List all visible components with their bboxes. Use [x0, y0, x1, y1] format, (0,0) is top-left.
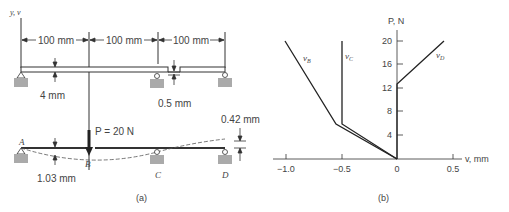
figure: y, v 100 mm 100 mm 100 mm [0, 0, 509, 212]
xtick-neg1: −1.0 [277, 164, 295, 174]
gap-05mm-label: 0.5 mm [158, 98, 191, 109]
support-roller-C2 [150, 150, 164, 165]
panel-a: y, v 100 mm 100 mm 100 mm [9, 8, 260, 203]
ytick-20: 20 [382, 36, 392, 46]
series-vB [285, 41, 397, 159]
span-3-label: 100 mm [173, 35, 209, 46]
point-B-label: B [85, 159, 91, 169]
support-pin-A [14, 72, 28, 87]
y-axis-label: P, N [388, 16, 404, 26]
ytick-4: 4 [387, 130, 392, 140]
support-roller-D [218, 73, 232, 88]
span-1-label: 100 mm [38, 35, 74, 46]
gap-4mm-label: 4 mm [40, 90, 65, 101]
axis-label-yv: y, v [9, 8, 21, 17]
label-vB: vB [303, 53, 311, 64]
beam-left [21, 67, 168, 72]
beam-right [180, 67, 225, 72]
xtick-neg05: −0.5 [333, 164, 351, 174]
support-roller-C [150, 74, 164, 89]
point-C-label: C [155, 170, 162, 180]
support-roller-D2 [218, 150, 232, 165]
caption-b: (b) [378, 193, 389, 203]
load-label: P = 20 N [95, 126, 134, 137]
ytick-12: 12 [382, 83, 392, 93]
defl-D-label: 0.42 mm [221, 114, 260, 125]
xtick-0: 0 [394, 164, 399, 174]
panel-b-chart: −1.0 −0.5 0 0.5 4 8 12 16 20 P, N v, mm … [273, 16, 489, 203]
deflected-shape [21, 139, 225, 160]
caption-a: (a) [136, 193, 147, 203]
ytick-8: 8 [387, 106, 392, 116]
xtick-05: 0.5 [447, 164, 460, 174]
load-arrow [85, 130, 93, 156]
point-A-label: A [18, 137, 25, 147]
ytick-16: 16 [382, 59, 392, 69]
label-vC: vC [345, 51, 354, 62]
support-pin-A2 [14, 148, 28, 163]
x-axis-label: v, mm [465, 154, 489, 164]
span-2-label: 100 mm [106, 35, 142, 46]
label-vD: vD [436, 50, 445, 61]
defl-B-label: 1.03 mm [37, 173, 76, 184]
point-D-label: D [221, 170, 229, 180]
